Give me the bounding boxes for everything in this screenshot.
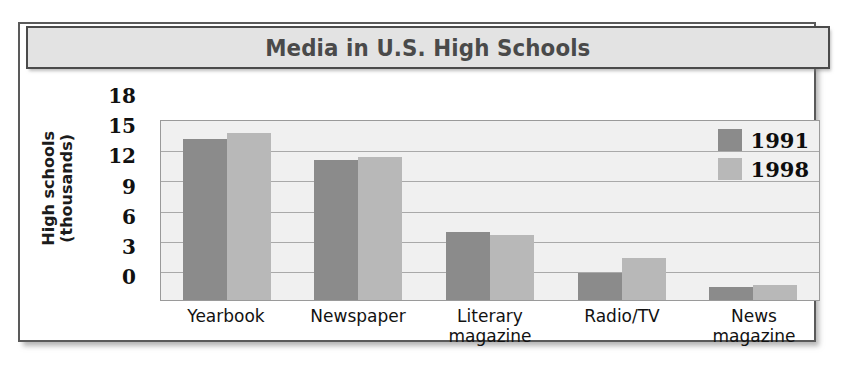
bar-1998 (358, 157, 402, 300)
y-tick-label: 18 (108, 86, 136, 106)
bar-1991 (183, 139, 227, 300)
y-tick-label: 12 (108, 146, 136, 166)
x-axis-label: Yearbook (160, 306, 292, 347)
y-tick-label: 9 (122, 177, 136, 197)
legend-item-1998: 1998 (718, 158, 809, 180)
bar-1991 (446, 232, 490, 300)
bar-group (556, 121, 688, 300)
chart-title-bar: Media in U.S. High Schools (26, 26, 830, 69)
bar-1998 (622, 258, 666, 300)
y-tick-label: 0 (122, 267, 136, 287)
x-axis-label: News magazine (688, 306, 820, 347)
bar-group (161, 121, 293, 300)
bar-1991 (709, 287, 753, 300)
bar-1991 (314, 160, 358, 300)
plot-area: 19911998 (160, 120, 820, 301)
x-axis-labels: YearbookNewspaperLiterary magazineRadio/… (160, 306, 820, 347)
legend-label: 1998 (751, 159, 809, 180)
bar-1998 (753, 285, 797, 300)
bar-1991 (578, 273, 622, 300)
chart-legend: 19911998 (718, 129, 809, 180)
y-tick-label: 15 (108, 116, 136, 136)
y-axis-title: High schools (thousands) (26, 96, 90, 280)
chart-frame: 19911998 YearbookNewspaperLiterary magaz… (18, 22, 816, 342)
y-axis-title-line1: High schools (39, 131, 58, 246)
legend-item-1991: 1991 (718, 129, 809, 151)
bar-group (424, 121, 556, 300)
x-axis-label: Radio/TV (556, 306, 688, 347)
y-axis-title-line2: (thousands) (57, 134, 76, 243)
x-axis-label: Literary magazine (424, 306, 556, 347)
y-tick-label: 3 (122, 237, 136, 257)
legend-label: 1991 (751, 130, 809, 151)
bar-1998 (227, 133, 271, 300)
y-tick-label: 6 (122, 207, 136, 227)
y-tick-labels: 1815129630 (96, 88, 136, 288)
legend-swatch-icon (718, 129, 742, 151)
page-title: Media in U.S. High Schools (265, 35, 590, 61)
legend-swatch-icon (718, 158, 742, 180)
x-axis-label: Newspaper (292, 306, 424, 347)
bar-group (293, 121, 425, 300)
bar-1998 (490, 235, 534, 300)
